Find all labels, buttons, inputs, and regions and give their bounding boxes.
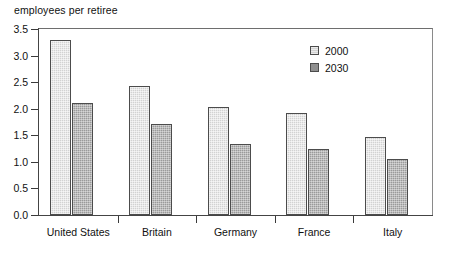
bars-layer: [39, 29, 432, 215]
x-axis-category-label: United States: [47, 226, 110, 238]
bar-italy-2000: [365, 137, 386, 215]
legend-swatch-2000: [310, 46, 319, 55]
legend-label-2030: 2030: [325, 62, 348, 74]
legend-swatch-2030: [310, 63, 319, 72]
y-axis-tick: [31, 56, 38, 57]
legend-item-2030: 2030: [310, 60, 348, 75]
y-axis-tick-label: 2.5: [0, 76, 28, 88]
bar-united-states-2030: [72, 103, 93, 215]
legend-item-2000: 2000: [310, 43, 348, 58]
x-axis-category-label: Italy: [383, 226, 402, 238]
x-axis-category-label: France: [298, 226, 331, 238]
legend-label-2000: 2000: [325, 45, 348, 57]
x-axis-category-label: Britain: [142, 226, 172, 238]
y-axis-title: employees per retiree: [14, 4, 118, 16]
chart-legend: 2000 2030: [310, 43, 348, 77]
y-axis-tick: [31, 215, 38, 216]
bar-france-2030: [308, 149, 329, 215]
x-axis-category-label: Germany: [214, 226, 257, 238]
y-axis-tick-label: 1.5: [0, 129, 28, 141]
x-axis-tick: [196, 216, 197, 223]
x-axis-tick: [353, 216, 354, 223]
y-axis-tick-label: 0.5: [0, 182, 28, 194]
bar-germany-2000: [208, 107, 229, 215]
bar-france-2000: [286, 113, 307, 215]
y-axis-tick-label: 0.0: [0, 209, 28, 221]
x-axis-tick: [118, 216, 119, 223]
y-axis-tick: [31, 82, 38, 83]
y-axis-tick-label: 3.5: [0, 23, 28, 35]
y-axis-tick: [31, 162, 38, 163]
bar-germany-2030: [230, 144, 251, 215]
y-axis-tick-label: 1.0: [0, 156, 28, 168]
bar-united-states-2000: [50, 40, 71, 215]
y-axis-tick: [31, 188, 38, 189]
bar-britain-2030: [151, 124, 172, 215]
x-axis-tick: [275, 216, 276, 223]
x-axis-line: [38, 215, 433, 216]
bar-italy-2030: [387, 159, 408, 215]
bar-chart: employees per retiree 2000 2030 0.00.51.…: [0, 0, 451, 270]
y-axis-tick-label: 3.0: [0, 50, 28, 62]
y-axis-tick-label: 2.0: [0, 103, 28, 115]
y-axis-tick: [31, 109, 38, 110]
y-axis-tick: [31, 135, 38, 136]
bar-britain-2000: [129, 86, 150, 215]
y-axis-tick: [31, 29, 38, 30]
